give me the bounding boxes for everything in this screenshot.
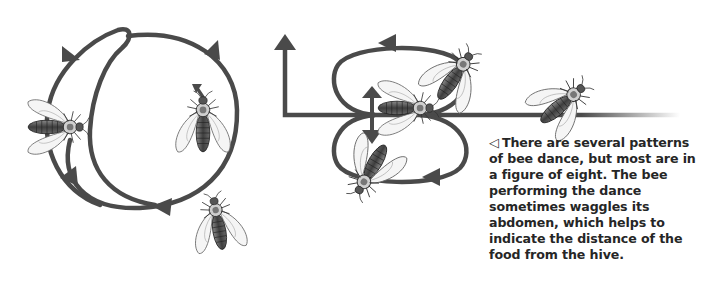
caption-text: There are several patterns of bee dance,…	[489, 135, 696, 262]
arrowhead-icon	[422, 168, 440, 186]
bee-icon	[417, 33, 497, 114]
up-arrow-icon	[274, 34, 296, 50]
bee-icon	[176, 91, 231, 152]
arrowhead-icon	[152, 198, 172, 216]
waggle-arrow-shaft	[370, 96, 374, 132]
caption-pointer-icon: ◁	[489, 135, 499, 150]
bee-icon	[524, 62, 606, 143]
bee-icon	[28, 100, 89, 155]
bee-icon	[378, 81, 439, 136]
bee-icon	[187, 188, 248, 254]
figure-caption: ◁There are several patterns of bee dance…	[489, 135, 704, 263]
bee-dance-figure: ◁There are several patterns of bee dance…	[0, 0, 706, 284]
